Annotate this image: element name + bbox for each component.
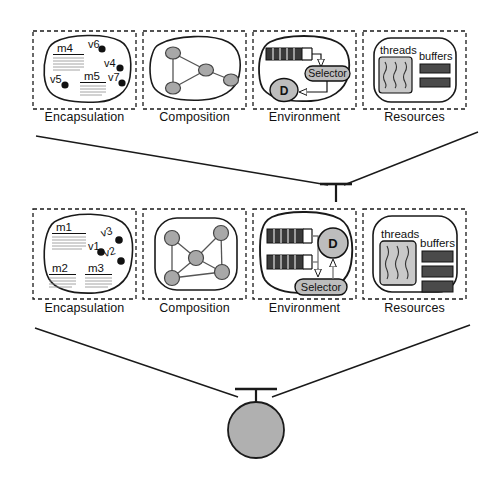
selector-label: Selector <box>308 67 347 79</box>
connector-upper-to-lower <box>36 132 478 202</box>
label-composition-upper: Composition <box>143 110 246 124</box>
panel-composition-lower[interactable] <box>143 209 246 299</box>
dispatcher-node-lower[interactable]: D <box>318 228 348 258</box>
label-environment-lower: Environment <box>253 301 356 315</box>
composition-blob <box>150 37 240 101</box>
panel-composition-upper[interactable] <box>143 31 246 109</box>
buffers-label: buffers <box>420 237 455 249</box>
selector-box-upper[interactable]: Selector <box>305 66 350 81</box>
upper-row: m4 m5 v6 <box>33 31 466 109</box>
architecture-diagram-svg: m4 m5 v6 <box>0 0 502 496</box>
panel-environment-upper[interactable]: Selector D <box>253 31 356 109</box>
dispatcher-label: D <box>328 236 337 251</box>
buffer-bars <box>422 251 453 292</box>
selector-box-lower[interactable]: Selector <box>295 279 347 295</box>
threads-box <box>379 57 412 93</box>
svg-text:v7: v7 <box>108 71 120 83</box>
threads-label: threads <box>380 44 417 56</box>
panel-environment-lower[interactable]: Selector D <box>253 209 356 299</box>
method-label-m3: m3 <box>88 262 104 274</box>
method-label-m5: m5 <box>84 70 100 82</box>
panel-resources-lower[interactable]: threads buffers <box>363 209 466 299</box>
lower-row: m1 m2 m3 <box>33 209 466 299</box>
threads-box <box>380 241 416 285</box>
label-resources-upper: Resources <box>363 110 466 124</box>
label-encapsulation-upper: Encapsulation <box>33 110 136 124</box>
method-label-m4: m4 <box>57 42 74 54</box>
label-composition-lower: Composition <box>143 301 246 315</box>
method-label-m2: m2 <box>52 262 68 274</box>
panel-resources-upper[interactable]: threads buffers <box>363 31 466 109</box>
actor-circle[interactable] <box>228 402 284 458</box>
panel-encapsulation-lower[interactable]: m1 m2 m3 <box>33 209 136 299</box>
diagram-canvas: m4 m5 v6 <box>0 0 502 496</box>
label-encapsulation-lower: Encapsulation <box>33 301 136 315</box>
svg-text:v4: v4 <box>104 57 116 69</box>
dispatcher-label: D <box>280 84 289 98</box>
label-resources-lower: Resources <box>363 301 466 315</box>
method-label-m1: m1 <box>56 221 72 233</box>
svg-text:v6: v6 <box>88 38 100 50</box>
buffers-label: buffers <box>419 50 453 62</box>
connector-lower-to-actor <box>35 325 470 404</box>
dispatcher-node-upper[interactable]: D <box>270 79 298 102</box>
panel-encapsulation-upper[interactable]: m4 m5 v6 <box>33 31 136 109</box>
label-environment-upper: Environment <box>253 110 356 124</box>
svg-text:v5: v5 <box>50 73 62 85</box>
selector-label: Selector <box>301 281 342 293</box>
threads-label: threads <box>381 228 420 240</box>
